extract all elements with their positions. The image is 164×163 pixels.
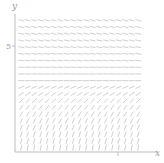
field-tick <box>84 99 88 103</box>
field-tick <box>32 86 37 88</box>
field-tick <box>118 125 120 130</box>
field-tick <box>71 47 76 48</box>
field-tick <box>77 47 82 48</box>
field-tick <box>59 105 62 109</box>
field-tick <box>58 99 62 103</box>
field-tick <box>90 60 95 61</box>
plot-canvas: 5 y x <box>0 0 164 163</box>
field-tick <box>72 125 74 130</box>
field-tick <box>123 33 128 34</box>
field-tick <box>27 125 29 130</box>
field-tick <box>136 93 140 96</box>
field-tick <box>60 138 61 143</box>
field-tick <box>25 40 30 41</box>
field-tick <box>137 125 139 130</box>
field-tick <box>86 145 87 150</box>
field-tick <box>27 145 28 150</box>
field-tick <box>84 47 89 48</box>
field-tick <box>19 93 23 96</box>
field-tick <box>111 132 113 137</box>
field-tick <box>77 20 82 21</box>
field-tick <box>79 138 80 143</box>
field-tick <box>51 86 56 88</box>
field-tick <box>71 40 76 41</box>
field-tick <box>72 112 75 116</box>
field-tick <box>129 26 134 27</box>
field-tick <box>38 40 43 41</box>
slope-field-figure: 5 y x <box>0 0 164 163</box>
field-tick <box>39 93 43 96</box>
field-tick <box>19 60 24 61</box>
field-tick <box>117 99 121 103</box>
field-tick <box>25 20 30 21</box>
field-tick <box>84 40 89 41</box>
field-tick <box>137 105 140 109</box>
field-tick <box>136 20 141 21</box>
field-tick <box>136 40 141 41</box>
field-tick <box>110 53 115 54</box>
field-tick <box>124 132 126 137</box>
field-tick <box>26 112 29 116</box>
field-tick <box>25 47 30 48</box>
field-tick <box>45 60 50 61</box>
field-tick <box>110 99 114 103</box>
field-tick <box>38 33 43 34</box>
field-tick <box>33 112 36 116</box>
field-tick <box>90 86 95 88</box>
field-tick <box>39 105 42 109</box>
field-tick <box>33 132 35 137</box>
field-tick <box>60 145 61 150</box>
field-tick <box>25 26 30 27</box>
field-tick <box>19 53 24 54</box>
field-tick <box>98 112 101 116</box>
field-tick <box>104 99 108 103</box>
field-tick <box>91 105 94 109</box>
field-tick <box>66 125 68 130</box>
field-tick <box>59 119 61 124</box>
field-tick <box>58 93 62 96</box>
field-tick <box>19 33 24 34</box>
field-tick <box>58 26 63 27</box>
field-tick <box>25 60 30 61</box>
field-tick <box>124 112 127 116</box>
field-tick <box>99 145 100 150</box>
field-tick <box>45 86 50 88</box>
field-tick <box>65 99 69 103</box>
field-tick <box>21 145 22 150</box>
field-tick <box>105 125 107 130</box>
field-tick <box>45 47 50 48</box>
field-tick <box>136 26 141 27</box>
field-tick <box>98 119 100 124</box>
field-tick <box>104 93 108 96</box>
field-tick <box>45 53 50 54</box>
field-tick <box>137 132 139 137</box>
field-tick <box>130 99 134 103</box>
field-tick <box>19 86 24 88</box>
field-tick <box>85 125 87 130</box>
field-tick <box>84 86 89 88</box>
field-tick <box>123 40 128 41</box>
field-tick <box>103 47 108 48</box>
field-tick <box>32 60 37 61</box>
field-tick <box>85 132 87 137</box>
field-tick <box>99 138 100 143</box>
field-tick <box>46 112 49 116</box>
field-tick <box>112 138 113 143</box>
field-tick <box>129 53 134 54</box>
field-tick <box>45 33 50 34</box>
field-tick <box>71 99 75 103</box>
field-tick <box>136 86 141 88</box>
field-tick <box>123 60 128 61</box>
field-tick <box>19 47 24 48</box>
field-tick <box>104 112 107 116</box>
field-tick <box>58 86 63 88</box>
field-tick <box>53 132 55 137</box>
field-tick <box>79 119 81 124</box>
field-tick <box>71 53 76 54</box>
field-tick <box>136 47 141 48</box>
field-tick <box>71 33 76 34</box>
field-tick <box>123 53 128 54</box>
field-tick <box>103 86 108 88</box>
field-tick <box>40 145 41 150</box>
field-tick <box>32 47 37 48</box>
